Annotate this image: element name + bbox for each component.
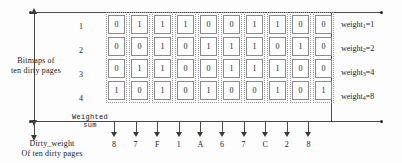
- sum-arrow-c4: [179, 122, 180, 132]
- bit-cell-r4-c4: 0: [177, 81, 194, 100]
- weighted-sum-c10: 8: [300, 140, 316, 150]
- bit-cell-r1-c9: 0: [292, 15, 309, 34]
- weight-label-2: weight2=2: [341, 44, 374, 55]
- bit-cell-r3-c3: 1: [154, 59, 171, 78]
- bitmap-column-1: 0001: [106, 12, 127, 103]
- sum-arrow-c8: [265, 122, 266, 132]
- weight-value-4: =8: [366, 92, 375, 101]
- bit-cell-r3-c2: 1: [131, 59, 148, 78]
- dirty-weight-down-arrow: [34, 122, 35, 136]
- dirty-weight-caption-line1: Dirty_weight: [0, 139, 104, 149]
- bit-cell-r4-c9: 0: [292, 81, 309, 100]
- bit-cell-r1-c5: 0: [200, 15, 217, 34]
- bit-cell-r3-c8: 1: [269, 59, 286, 78]
- sum-arrow-c10: [308, 122, 309, 132]
- bit-cell-r1-c7: 1: [246, 15, 263, 34]
- top-right-end-dot: [380, 11, 383, 14]
- bit-cell-r1-c8: 1: [269, 15, 286, 34]
- weighted-sum-c3: F: [149, 140, 165, 150]
- bit-cell-r3-c1: 0: [108, 59, 125, 78]
- bit-cell-r3-c7: 1: [246, 59, 263, 78]
- weighted-sum-caption-line1: Weighted: [62, 113, 118, 121]
- weighted-sum-c5: A: [192, 140, 208, 150]
- weight-label-3: weight3=4: [341, 68, 374, 79]
- bitmap-column-4: 1000: [175, 12, 196, 103]
- bit-cell-r2-c7: 1: [246, 37, 263, 56]
- bit-cell-r3-c5: 0: [200, 59, 217, 78]
- sum-arrow-c6: [222, 122, 223, 132]
- sum-arrow-c7: [244, 122, 245, 132]
- bitmaps-caption-line2: ten dirty pages: [0, 66, 72, 76]
- weight-value-2: =2: [366, 44, 375, 53]
- bitmap-column-5: 0101: [198, 12, 219, 103]
- bitmap-column-9: 0100: [290, 12, 311, 103]
- bit-cell-r3-c6: 1: [223, 59, 240, 78]
- bit-cell-r2-c10: 0: [315, 37, 332, 56]
- bit-cell-r2-c8: 0: [269, 37, 286, 56]
- row-index-1: 1: [74, 22, 88, 32]
- bit-cell-r3-c10: 0: [315, 59, 332, 78]
- bitmap-column-8: 1011: [267, 12, 288, 103]
- weight-label-text-2: weight: [341, 44, 363, 53]
- bit-cell-r4-c6: 0: [223, 81, 240, 100]
- sum-arrow-c5: [200, 122, 201, 132]
- sum-arrow-c3: [157, 122, 158, 132]
- weighted-sum-c9: 2: [279, 140, 295, 150]
- bitmap-column-10: 0001: [313, 12, 334, 103]
- row-index-2: 2: [74, 46, 88, 56]
- bitmap-weighted-sum-figure: Bitmaps of ten dirty pages Dirty_weight …: [0, 0, 402, 163]
- bit-cell-r2-c5: 1: [200, 37, 217, 56]
- bit-cell-r4-c8: 1: [269, 81, 286, 100]
- bit-cell-r1-c10: 0: [315, 15, 332, 34]
- dirty-weight-caption: Dirty_weight Of ten dirty pages: [0, 139, 104, 159]
- weight-value-1: =1: [366, 20, 375, 29]
- bit-cell-r1-c1: 0: [108, 15, 125, 34]
- bit-cell-r2-c3: 1: [154, 37, 171, 56]
- weighted-sum-c2: 7: [128, 140, 144, 150]
- bitmap-column-6: 0110: [221, 12, 242, 103]
- bit-cell-r4-c10: 1: [315, 81, 332, 100]
- weighted-sum-c4: 1: [171, 140, 187, 150]
- bit-cell-r4-c7: 0: [246, 81, 263, 100]
- bit-cell-r4-c1: 1: [108, 81, 125, 100]
- weight-label-1: weight1=1: [341, 20, 374, 31]
- bit-cell-r2-c9: 1: [292, 37, 309, 56]
- bit-cell-r4-c5: 1: [200, 81, 217, 100]
- weighted-sum-caption-line2: sum: [62, 121, 118, 129]
- bitmaps-caption-line1: Bitmaps of: [0, 56, 72, 66]
- bit-cell-r4-c2: 0: [131, 81, 148, 100]
- weight-value-3: =4: [366, 68, 375, 77]
- bitmap-column-3: 1111: [152, 12, 173, 103]
- bitmap-column-2: 1010: [129, 12, 150, 103]
- sum-arrow-c1: [114, 122, 115, 132]
- weight-label-text-3: weight: [341, 68, 363, 77]
- weighted-sum-caption: Weighted sum: [62, 113, 118, 129]
- weighted-sum-c8: C: [257, 140, 273, 150]
- bitmaps-caption: Bitmaps of ten dirty pages: [0, 56, 72, 76]
- bit-cell-r2-c2: 0: [131, 37, 148, 56]
- weighted-sum-c7: 7: [236, 140, 252, 150]
- weighted-sum-c1: 8: [106, 140, 122, 150]
- bit-cell-r3-c9: 0: [292, 59, 309, 78]
- bit-cell-r2-c4: 0: [177, 37, 194, 56]
- sum-arrow-c2: [136, 122, 137, 132]
- bitmap-matrix: 0001101011111000010101101110101101000001: [106, 12, 334, 103]
- bottom-right-end-dot: [380, 120, 383, 123]
- bit-cell-r2-c1: 0: [108, 37, 125, 56]
- weight-label-text-1: weight: [341, 20, 363, 29]
- row-index-3: 3: [74, 70, 88, 80]
- bit-cell-r1-c4: 1: [177, 15, 194, 34]
- bit-cell-r1-c2: 1: [131, 15, 148, 34]
- bit-cell-r2-c6: 1: [223, 37, 240, 56]
- bitmap-column-7: 1110: [244, 12, 265, 103]
- bit-cell-r1-c3: 1: [154, 15, 171, 34]
- bit-cell-r1-c6: 0: [223, 15, 240, 34]
- row-index-4: 4: [74, 94, 88, 104]
- weighted-sum-c6: 6: [214, 140, 230, 150]
- dirty-weight-caption-line2: Of ten dirty pages: [0, 149, 104, 159]
- sum-arrow-c9: [287, 122, 288, 132]
- bit-cell-r3-c4: 0: [177, 59, 194, 78]
- weight-label-4: weight4=8: [341, 92, 374, 103]
- weight-label-text-4: weight: [341, 92, 363, 101]
- bit-cell-r4-c3: 1: [154, 81, 171, 100]
